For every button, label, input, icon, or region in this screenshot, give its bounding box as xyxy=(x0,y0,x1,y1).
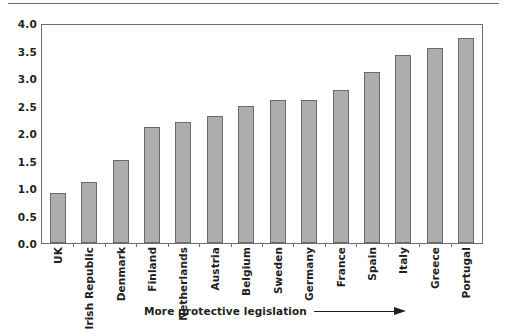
category-label: Germany xyxy=(304,247,315,301)
bar xyxy=(364,72,380,243)
top-divider-rule xyxy=(8,3,499,4)
bar xyxy=(81,182,97,243)
bar xyxy=(207,116,223,243)
bar-slot xyxy=(105,25,136,243)
category-label-slot: Germany xyxy=(293,247,324,303)
y-axis-tick-labels: 4.03.53.02.52.01.51.00.50.0 xyxy=(0,24,37,244)
category-label: Denmark xyxy=(115,247,126,301)
category-label-slot: Irish Republic xyxy=(73,247,104,303)
bar-slot xyxy=(356,25,387,243)
bar xyxy=(175,122,191,243)
bar-chart-figure: 4.03.53.02.52.01.51.00.50.0 UKIrish Repu… xyxy=(0,0,507,336)
category-label-slot: Austria xyxy=(199,247,230,303)
category-label-slot: Denmark xyxy=(105,247,136,303)
category-label: Finland xyxy=(147,247,158,292)
bar xyxy=(458,38,474,243)
y-axis-tick-label: 3.0 xyxy=(0,74,37,85)
category-label: Italy xyxy=(398,247,409,274)
bar xyxy=(395,55,411,243)
category-label-slot: France xyxy=(325,247,356,303)
bar-slot xyxy=(136,25,167,243)
category-label-slot: Belgium xyxy=(231,247,262,303)
category-label-slot: Italy xyxy=(388,247,419,303)
category-label-slot: Portugal xyxy=(451,247,482,303)
bar-slot xyxy=(325,25,356,243)
bar-slot xyxy=(419,25,450,243)
category-label: UK xyxy=(52,247,63,264)
bar-slot xyxy=(231,25,262,243)
bar xyxy=(270,100,286,243)
category-label: Portugal xyxy=(461,247,472,299)
bar-slot xyxy=(42,25,73,243)
category-label-slot: Sweden xyxy=(262,247,293,303)
category-label: Belgium xyxy=(241,247,252,296)
bar xyxy=(50,193,66,243)
category-label: Greece xyxy=(430,247,441,289)
category-label: France xyxy=(335,247,346,287)
x-axis-category-labels: UKIrish RepublicDenmarkFinlandNetherland… xyxy=(42,247,482,303)
bar xyxy=(427,48,443,243)
bar xyxy=(333,90,349,243)
category-label: Spain xyxy=(367,247,378,281)
x-axis-caption-text: More protective legislation xyxy=(144,305,307,317)
y-axis-tick-label: 1.5 xyxy=(0,156,37,167)
y-axis-tick-label: 4.0 xyxy=(0,19,37,30)
bar xyxy=(301,100,317,243)
right-arrow-icon xyxy=(314,306,406,316)
category-label-slot: Netherlands xyxy=(168,247,199,303)
y-axis-tick-label: 2.5 xyxy=(0,101,37,112)
bar-series xyxy=(42,25,482,243)
category-label-slot: UK xyxy=(42,247,73,303)
category-label-slot: Spain xyxy=(356,247,387,303)
bar-slot xyxy=(199,25,230,243)
category-label-slot: Greece xyxy=(419,247,450,303)
category-label: Sweden xyxy=(272,247,283,294)
bar-slot xyxy=(73,25,104,243)
bar xyxy=(238,106,254,243)
y-axis-tick-label: 2.0 xyxy=(0,129,37,140)
y-axis-tick-label: 3.5 xyxy=(0,46,37,57)
y-axis-tick-label: 0.5 xyxy=(0,211,37,222)
y-axis-tick-label: 0.0 xyxy=(0,239,37,250)
bar xyxy=(113,160,129,243)
category-label: Austria xyxy=(210,247,221,290)
bar-slot xyxy=(293,25,324,243)
category-label-slot: Finland xyxy=(136,247,167,303)
bar-slot xyxy=(451,25,482,243)
category-label: Irish Republic xyxy=(84,247,95,330)
bar-slot xyxy=(168,25,199,243)
y-axis-tick-label: 1.0 xyxy=(0,184,37,195)
bar-slot xyxy=(262,25,293,243)
bar xyxy=(144,127,160,243)
bar-slot xyxy=(388,25,419,243)
x-axis-caption: More protective legislation xyxy=(144,305,406,317)
